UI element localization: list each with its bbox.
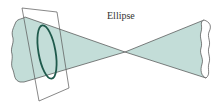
- ellipse-label: Ellipse: [107, 10, 135, 21]
- right-cone-opening: [200, 20, 210, 78]
- left-cone: [11, 17, 125, 82]
- right-cone: [125, 20, 206, 78]
